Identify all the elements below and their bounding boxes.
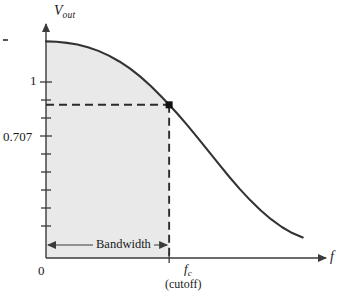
y-tick-label-unity: 1	[30, 74, 37, 87]
cutoff-point-marker	[166, 101, 173, 108]
y-tick-label-0707: 0.707	[3, 130, 32, 143]
origin-label: 0	[38, 264, 45, 277]
y-axis-label: Vout	[54, 4, 75, 20]
bandwidth-annotation-label: Bandwidth	[93, 238, 154, 251]
plot-canvas	[0, 0, 345, 302]
passband-fill	[46, 41, 169, 258]
cutoff-note-label: (cutoff)	[165, 278, 201, 290]
frequency-response-figure: Vout f 1 0.707 0 fc (cutoff) Bandwidth	[0, 0, 345, 302]
x-tick-label-cutoff-frequency: fc	[184, 262, 192, 278]
x-axis-label: f	[330, 250, 334, 264]
